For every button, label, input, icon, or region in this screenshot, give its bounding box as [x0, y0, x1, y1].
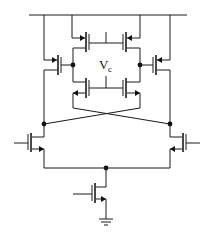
pmos-outer-left: [44, 15, 73, 124]
cross-wire-a: [73, 108, 170, 124]
pmos-outer-right: [140, 15, 170, 124]
circuit-diagram: V c: [0, 0, 212, 243]
nmos-input-right: [170, 124, 200, 168]
ctrl-transistor-right: [123, 65, 140, 108]
nmos-tail: [73, 168, 106, 219]
ctrl-transistor-left: [73, 65, 89, 108]
vc-label-subscript: c: [108, 64, 112, 74]
pmos-inner-right: [123, 15, 140, 65]
schematic-svg: V c: [0, 0, 212, 243]
cross-wire-b: [44, 108, 140, 124]
ground-symbol: [99, 219, 113, 225]
pmos-inner-left: [72, 15, 89, 65]
nmos-input-left: [14, 124, 44, 168]
